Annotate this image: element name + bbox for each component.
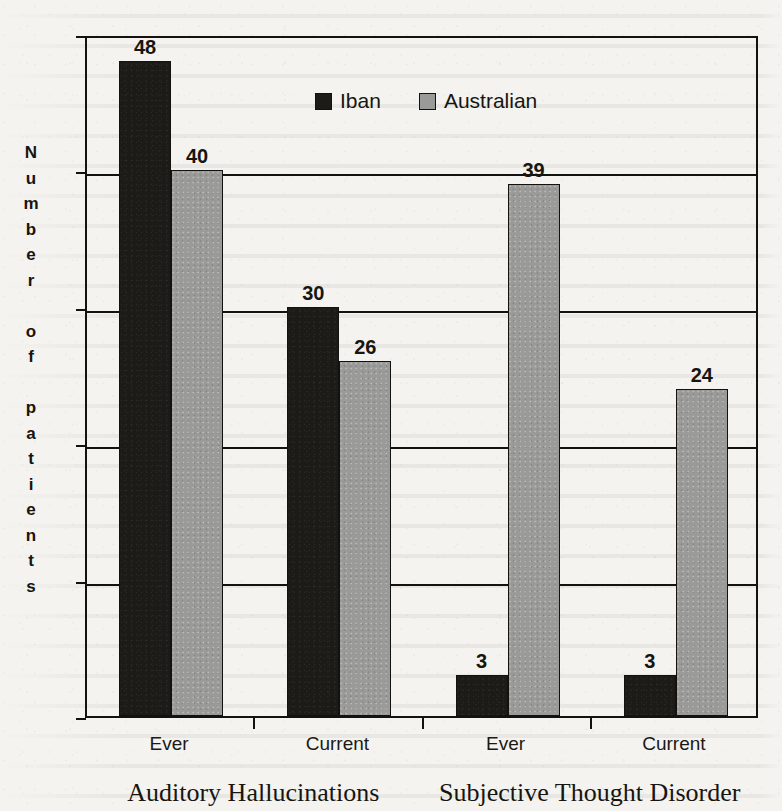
chart-legend: IbanAustralian [315,89,537,113]
bar-australian: 26 [339,361,391,716]
legend-swatch-icon [419,93,436,110]
y-axis-tick-mark [76,718,86,720]
bar-value-label: 30 [302,282,324,305]
y-axis-title-char: e [18,497,44,523]
y-axis-title-char: p [18,395,44,421]
y-axis-title-char: N [18,140,44,166]
legend-item-australian: Australian [419,89,537,113]
bar-australian: 39 [508,184,560,716]
bar-value-label: 3 [476,650,487,673]
x-axis-category-label: Current [253,733,421,755]
y-axis-title-char: s [18,574,44,600]
legend-item-iban: Iban [315,89,381,113]
y-axis-title-char: m [18,191,44,217]
x-axis-category-label: Ever [422,733,590,755]
x-axis-group-label: Auditory Hallucinations [85,778,422,808]
chart-page: Numberofpatients 50403020100 48403026339… [0,0,782,811]
x-axis-tick-mark [422,718,424,729]
y-axis-title: Numberofpatients [18,140,44,599]
bar-iban: 48 [119,61,171,716]
y-axis-title-char: t [18,446,44,472]
y-axis-title-char: t [18,548,44,574]
bar-value-label: 24 [691,364,713,387]
x-axis-tick-mark [590,718,592,729]
legend-swatch-icon [315,93,332,110]
bar-australian: 40 [171,170,223,716]
y-axis-title-char: r [18,268,44,294]
y-axis-title-char: n [18,523,44,549]
y-axis-title-char: f [18,344,44,370]
y-axis-title-char: a [18,421,44,447]
y-axis-title-char: u [18,166,44,192]
y-axis-title-char: i [18,472,44,498]
plot-area: 48403026339324 [85,36,758,718]
bar-australian: 24 [676,389,728,716]
x-axis-category-label: Ever [85,733,253,755]
y-axis-title-char: b [18,217,44,243]
bar-value-label: 40 [186,145,208,168]
x-axis-category-label: Current [590,733,758,755]
y-axis-title-char: o [18,319,44,345]
bar-value-label: 3 [644,650,655,673]
bar-value-label: 39 [523,159,545,182]
y-axis-title-gap [18,293,44,319]
legend-label: Iban [340,89,381,113]
bar-iban: 3 [624,675,676,716]
legend-label: Australian [444,89,537,113]
bar-value-label: 26 [354,336,376,359]
bar-iban: 30 [287,307,339,716]
x-axis-tick-mark [253,718,255,729]
x-axis-group-label: Subjective Thought Disorder [422,778,759,808]
bar-value-label: 48 [134,36,156,59]
y-axis-title-gap [18,370,44,396]
y-axis-title-char: e [18,242,44,268]
bar-iban: 3 [456,675,508,716]
